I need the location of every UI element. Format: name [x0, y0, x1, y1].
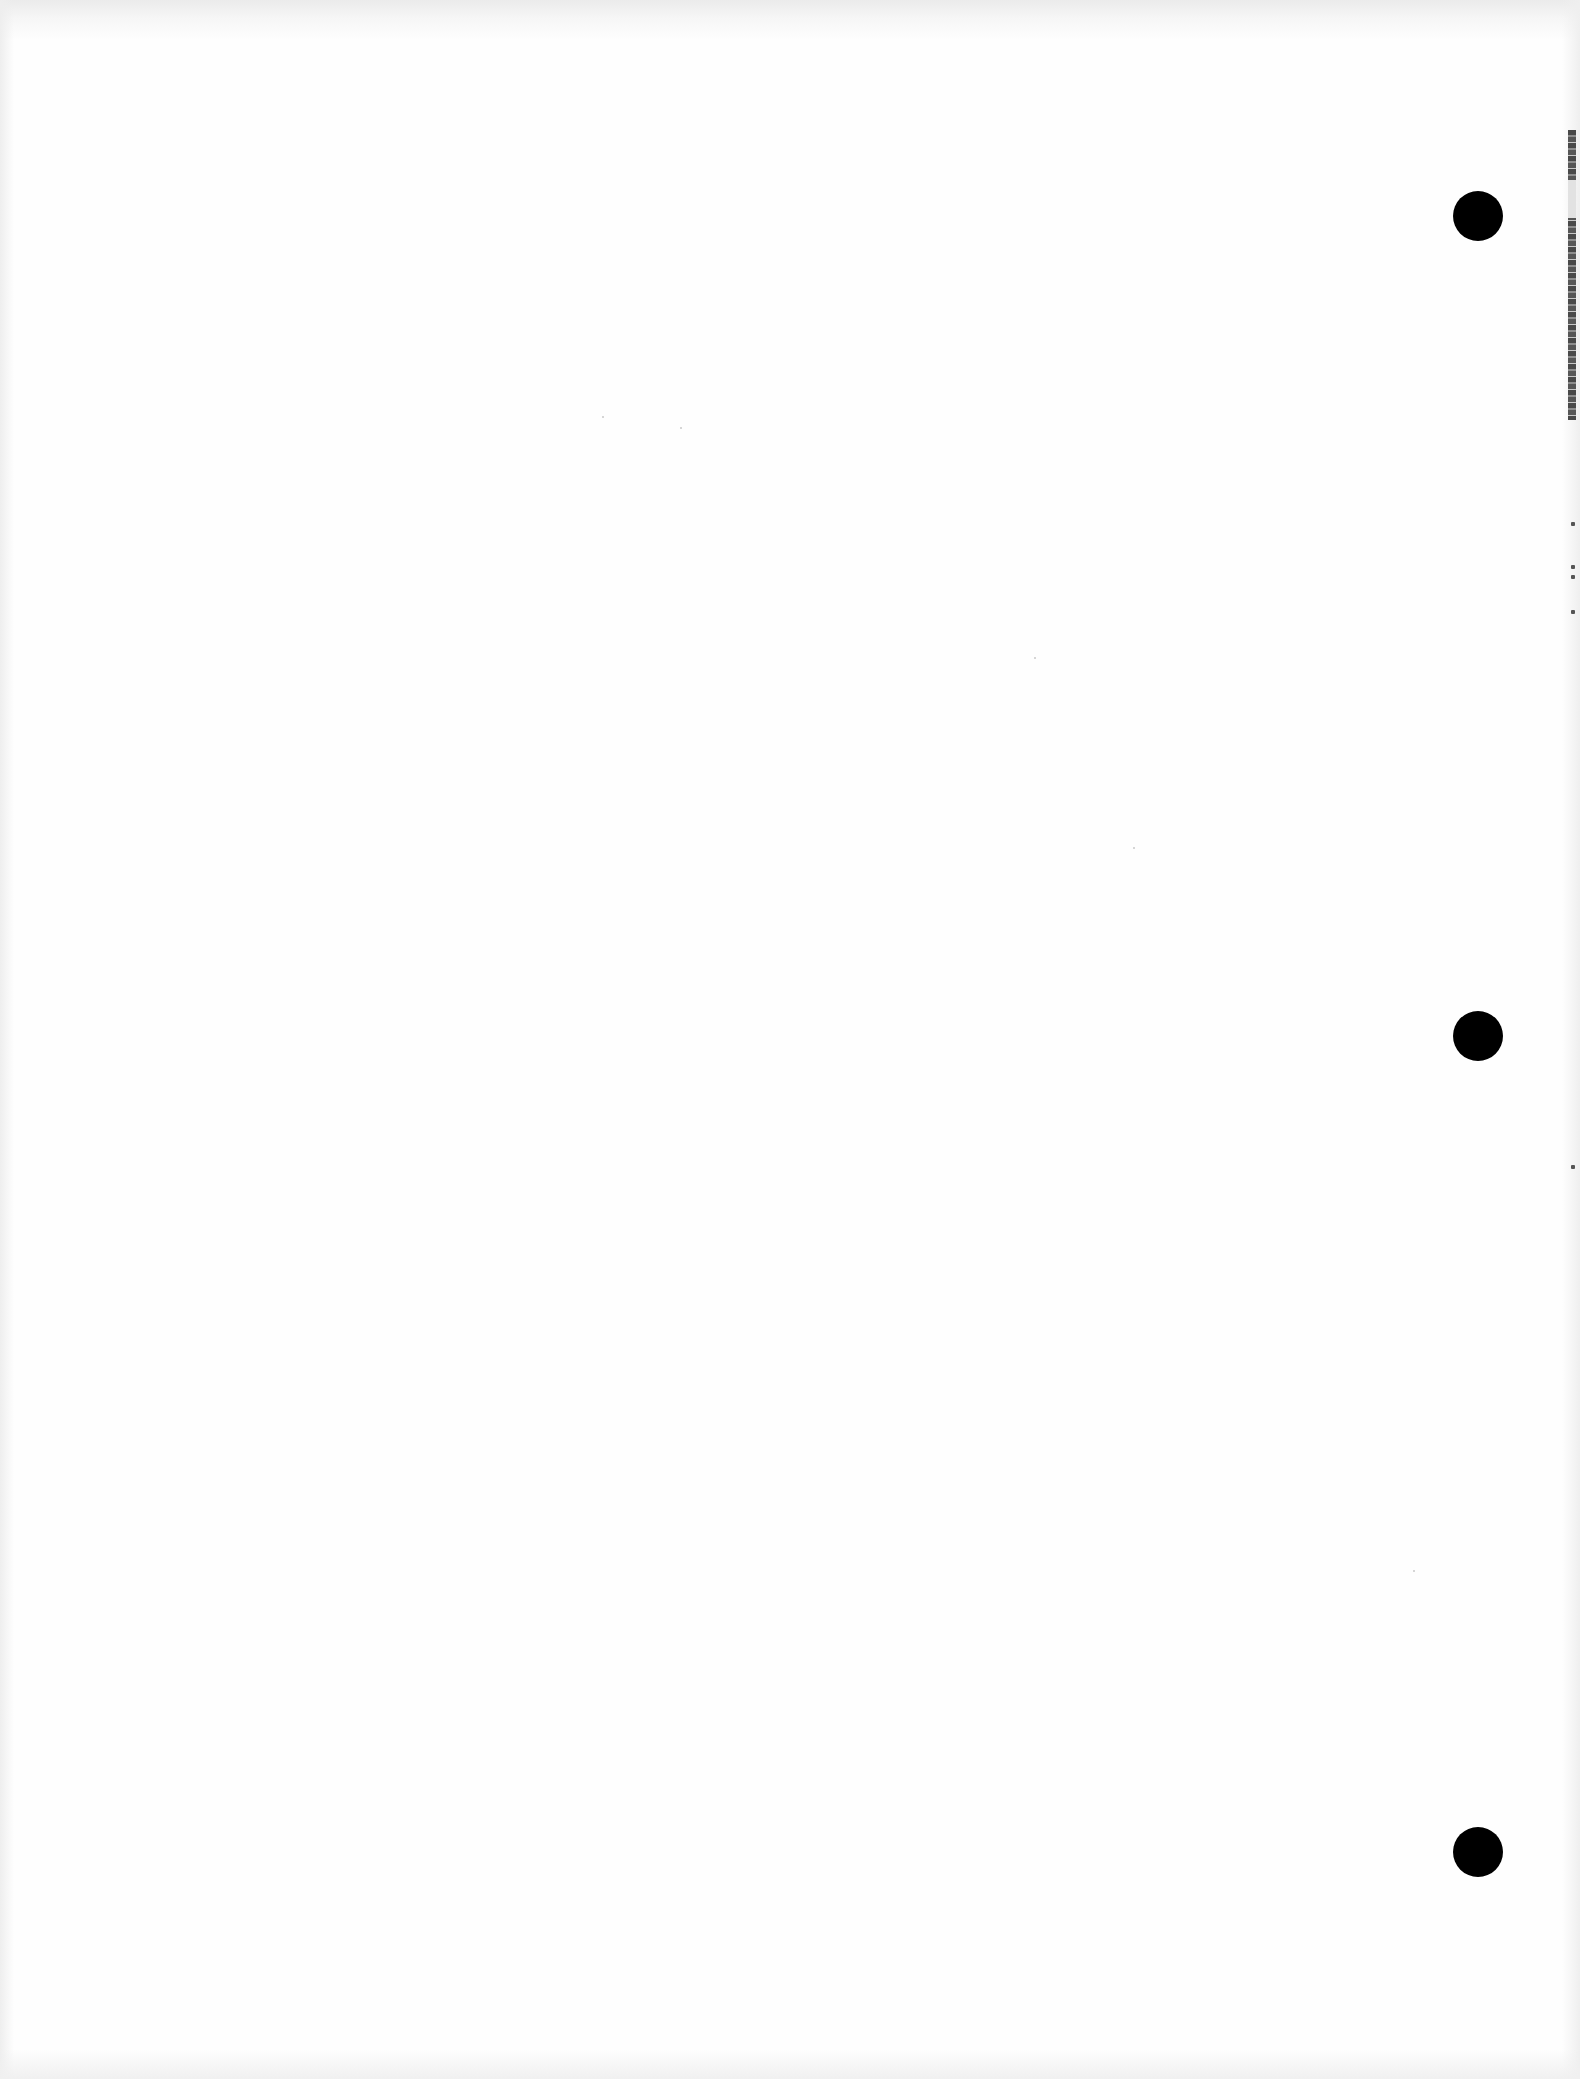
edge-mark — [1571, 1165, 1575, 1169]
punch-hole-bottom — [1453, 1827, 1503, 1877]
edge-mark — [1571, 522, 1575, 526]
scan-speck — [1034, 657, 1036, 659]
blank-page — [0, 0, 1580, 2079]
scan-speck — [602, 416, 604, 418]
punch-hole-middle — [1453, 1011, 1503, 1061]
edge-bleed-strip — [1568, 130, 1576, 420]
scan-shadow-bottom — [0, 2049, 1580, 2079]
scan-shadow-left — [0, 0, 14, 2079]
edge-mark — [1571, 575, 1575, 579]
scan-speck — [1413, 1570, 1415, 1572]
edge-mark — [1571, 610, 1575, 614]
scan-shadow-top — [0, 0, 1580, 40]
scan-speck — [1133, 847, 1135, 849]
edge-mark — [1571, 565, 1575, 569]
punch-hole-top — [1453, 191, 1503, 241]
edge-bleed-gap — [1568, 180, 1576, 218]
scan-speck — [680, 427, 682, 429]
